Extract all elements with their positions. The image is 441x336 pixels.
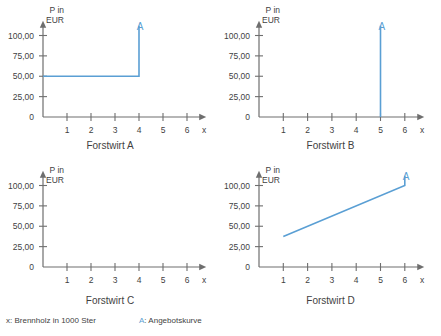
x-tick-label: 2 (89, 275, 94, 285)
x-tick-label: 5 (161, 275, 166, 285)
supply-curve (43, 26, 139, 77)
y-tick-label: 0 (245, 112, 250, 122)
x-tick-label: 4 (354, 125, 359, 135)
x-tick-label: 6 (185, 125, 190, 135)
y-tick-label: 25,00 (229, 242, 251, 252)
y-tick-label: 50,00 (13, 71, 35, 81)
panel-title-c: Forstwirt C (0, 295, 220, 306)
x-tick-label: 3 (113, 125, 118, 135)
x-tick-label: 6 (185, 275, 190, 285)
y-tick-label: 75,00 (229, 201, 251, 211)
x-tick-label: 5 (378, 125, 383, 135)
x-tick-label: 4 (354, 275, 359, 285)
y-tick-label: 0 (245, 262, 250, 272)
x-axis-arrow (417, 264, 424, 270)
y-tick-label: 75,00 (13, 201, 35, 211)
x-axis-arrow (417, 114, 424, 120)
x-tick-label: 2 (305, 125, 310, 135)
x-tick-label: 4 (137, 275, 142, 285)
y-tick-label: 50,00 (229, 71, 251, 81)
panel-title-b: Forstwirt B (220, 140, 441, 151)
chart-panel-d: 025,0050,0075,00100,00123456xA P in EUR … (220, 160, 441, 310)
y-tick-label: 25,00 (13, 242, 35, 252)
y-tick-label: 25,00 (13, 92, 35, 102)
x-tick-label: 3 (113, 275, 118, 285)
x-axis-arrow (199, 114, 206, 120)
x-axis-symbol: x (202, 125, 207, 135)
panel-title-a: Forstwirt A (0, 140, 220, 151)
curve-label: A (378, 21, 385, 32)
y-tick-label: 50,00 (229, 221, 251, 231)
curve-label: A (137, 21, 144, 32)
x-tick-label: 4 (137, 125, 142, 135)
x-tick-label: 6 (402, 275, 407, 285)
x-tick-label: 5 (378, 275, 383, 285)
y-tick-label: 75,00 (229, 51, 251, 61)
y-axis-caption-a: P in EUR (30, 5, 64, 25)
y-axis-caption-c: P in EUR (30, 165, 64, 185)
y-tick-label: 0 (29, 112, 34, 122)
x-axis-arrow (199, 264, 206, 270)
x-tick-label: 3 (330, 125, 335, 135)
y-tick-label: 75,00 (13, 51, 35, 61)
curve-label: A (403, 171, 410, 182)
chart-panel-b: 025,0050,0075,00100,00123456xA P in EUR … (220, 0, 441, 160)
y-tick-label: 50,00 (13, 221, 35, 231)
x-tick-label: 1 (65, 275, 70, 285)
y-tick-label: 100,00 (224, 31, 250, 41)
x-axis-symbol: x (420, 275, 425, 285)
panel-title-d: Forstwirt D (220, 295, 441, 306)
y-tick-label: 25,00 (229, 92, 251, 102)
x-tick-label: 1 (281, 275, 286, 285)
legend-x-label: x: Brennholz in 1000 Ster (6, 316, 96, 325)
x-axis-symbol: x (202, 275, 207, 285)
y-axis-caption-d: P in EUR (246, 165, 280, 185)
chart-grid: 025,0050,0075,00100,00123456xA P in EUR … (0, 0, 441, 336)
x-tick-label: 1 (65, 125, 70, 135)
chart-panel-c: 025,0050,0075,00100,00123456x P in EUR F… (0, 160, 220, 310)
x-tick-label: 6 (402, 125, 407, 135)
legend-curve-entry: A: Angebotskurve (139, 316, 202, 325)
x-tick-label: 1 (281, 125, 286, 135)
y-axis-caption-b: P in EUR (246, 5, 280, 25)
supply-curve (283, 176, 405, 237)
y-tick-label: 100,00 (8, 31, 34, 41)
legend-curve-label: Angebotskurve (148, 316, 201, 325)
x-tick-label: 2 (89, 125, 94, 135)
y-tick-label: 0 (29, 262, 34, 272)
x-tick-label: 5 (161, 125, 166, 135)
x-tick-label: 2 (305, 275, 310, 285)
legend-curve-separator: : (144, 316, 146, 325)
chart-panel-a: 025,0050,0075,00100,00123456xA P in EUR … (0, 0, 220, 160)
x-tick-label: 3 (330, 275, 335, 285)
x-axis-symbol: x (420, 125, 425, 135)
